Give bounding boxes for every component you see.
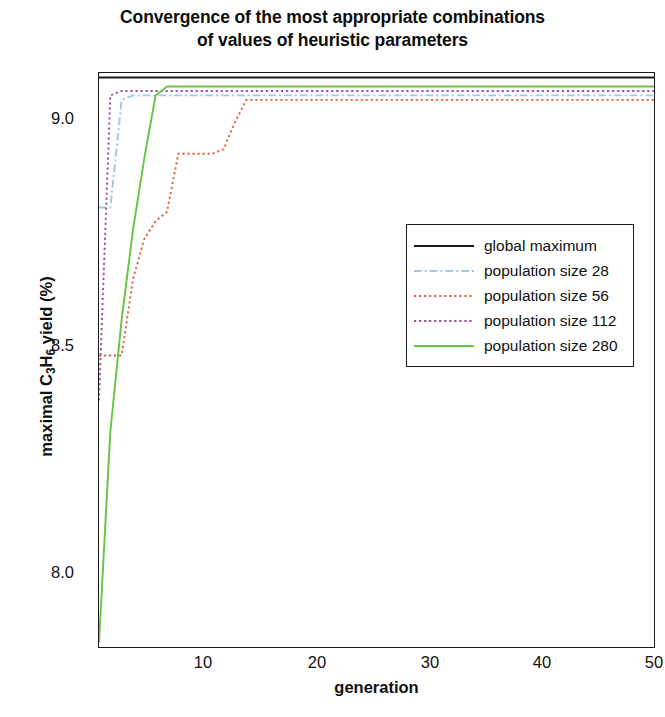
y-tick-label-9-0: 9.0 <box>51 110 74 126</box>
legend-item-population-size-280: population size 280 <box>413 333 627 358</box>
legend-label-population-size-28: population size 28 <box>484 262 609 280</box>
legend-label-population-size-56: population size 56 <box>484 287 609 305</box>
y-tick-label-8-0: 8.0 <box>51 564 74 580</box>
x-tick-label-50: 50 <box>645 653 663 671</box>
legend-swatch-population-size-112 <box>413 314 475 328</box>
y-axis-title: maximal C3H6 yield (%) <box>37 187 58 547</box>
chart-figure: Convergence of the most appropriate comb… <box>0 0 665 717</box>
y-axis-title-mid: H <box>37 355 55 367</box>
series-line-population-size-28 <box>99 95 654 207</box>
x-tick-label-10: 10 <box>194 653 212 671</box>
y-axis-title-sub-3: 3 <box>44 367 58 374</box>
y-axis-title-prefix: maximal C <box>37 374 55 457</box>
y-axis-title-suffix: yield (%) <box>37 276 55 348</box>
legend-swatch-population-size-28 <box>413 264 475 278</box>
x-axis-title: generation <box>98 678 655 697</box>
y-axis-title-sub-6: 6 <box>44 349 58 356</box>
chart-title: Convergence of the most appropriate comb… <box>0 6 665 52</box>
legend-swatch-population-size-56 <box>413 289 475 303</box>
x-tick-label-40: 40 <box>533 653 551 671</box>
legend-swatch-global-maximum <box>413 239 475 253</box>
legend-label-population-size-280: population size 280 <box>484 337 618 355</box>
x-tick-label-30: 30 <box>421 653 439 671</box>
legend-item-population-size-56: population size 56 <box>413 283 627 308</box>
legend-swatch-population-size-280 <box>413 339 475 353</box>
x-tick-label-20: 20 <box>308 653 326 671</box>
legend-label-global-maximum: global maximum <box>484 237 597 255</box>
chart-legend: global maximum population size 28 popula… <box>406 224 634 367</box>
legend-item-global-maximum: global maximum <box>413 233 627 258</box>
legend-label-population-size-112: population size 112 <box>484 312 616 330</box>
legend-item-population-size-28: population size 28 <box>413 258 627 283</box>
legend-item-population-size-112: population size 112 <box>413 308 627 333</box>
x-axis-tick-labels: 10 20 30 40 50 <box>98 653 655 677</box>
